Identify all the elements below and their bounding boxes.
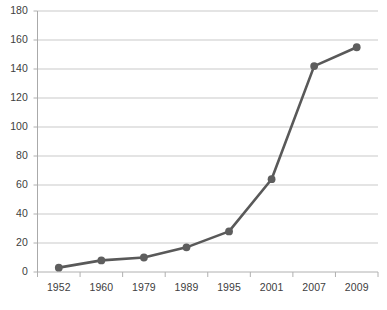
x-axis-tick-label: 1979 xyxy=(122,281,166,293)
x-axis-ticks-group xyxy=(38,272,379,277)
data-point-marker xyxy=(55,264,63,272)
x-axis-tick-label: 2001 xyxy=(250,281,294,293)
line-chart: 020406080100120140160180 195219601979198… xyxy=(0,0,387,310)
y-axis-tick-label: 160 xyxy=(2,33,28,45)
y-axis-tick-label: 140 xyxy=(2,62,28,74)
y-axis-tick-label: 40 xyxy=(2,207,28,219)
y-axis-tick-label: 20 xyxy=(2,236,28,248)
x-axis-tick-label: 1989 xyxy=(164,281,208,293)
gridlines-group xyxy=(34,11,379,272)
x-axis-tick-label: 1995 xyxy=(207,281,251,293)
data-point-marker xyxy=(97,257,105,265)
y-axis-tick-label: 80 xyxy=(2,149,28,161)
x-axis-tick-label: 2009 xyxy=(335,281,379,293)
data-series-line xyxy=(59,47,357,267)
y-axis-tick-label: 180 xyxy=(2,4,28,16)
y-axis-tick-label: 120 xyxy=(2,91,28,103)
data-point-marker xyxy=(268,175,276,183)
data-point-marker xyxy=(353,43,361,51)
x-axis-tick-label: 2007 xyxy=(292,281,336,293)
y-axis-tick-label: 60 xyxy=(2,178,28,190)
data-point-marker xyxy=(225,228,233,236)
y-axis-tick-label: 100 xyxy=(2,120,28,132)
y-axis-tick-label: 0 xyxy=(2,265,28,277)
data-point-marker xyxy=(140,254,148,262)
data-point-marker xyxy=(310,62,318,70)
x-axis-tick-label: 1960 xyxy=(79,281,123,293)
x-axis-tick-label: 1952 xyxy=(37,281,81,293)
chart-plot-area xyxy=(0,0,387,310)
data-point-marker xyxy=(183,243,191,251)
data-point-markers-group xyxy=(55,43,361,271)
